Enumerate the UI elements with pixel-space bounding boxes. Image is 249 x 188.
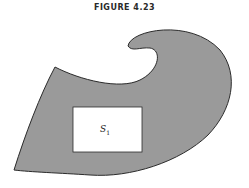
region-label-s1: S1 (100, 124, 110, 136)
curved-region-shape (14, 30, 231, 175)
label-subscript: 1 (106, 129, 110, 136)
region-diagram (0, 0, 249, 188)
